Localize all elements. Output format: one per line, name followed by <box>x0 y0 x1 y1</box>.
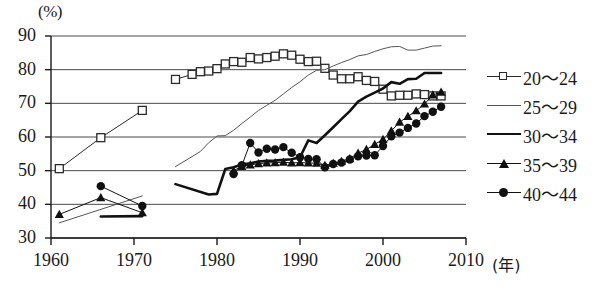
x-axis <box>51 238 466 245</box>
legend-label: 35～39 <box>523 151 577 177</box>
x-tick-label: 1970 <box>104 250 164 271</box>
x-tick-label: 1990 <box>270 250 330 271</box>
legend-swatch <box>487 156 521 172</box>
x-axis-unit-label: (年) <box>492 252 520 276</box>
y-tick-label: 90 <box>2 25 36 46</box>
legend-label: 20～24 <box>523 64 577 90</box>
y-tick-label: 60 <box>2 126 36 147</box>
x-tick-label: 1980 <box>187 250 247 271</box>
x-tick-label: 2000 <box>353 250 413 271</box>
x-tick-label: 1960 <box>21 250 81 271</box>
y-axis-unit-label: (%) <box>38 2 62 22</box>
y-axis <box>45 36 51 238</box>
legend-swatch <box>487 127 521 143</box>
legend-label: 30～34 <box>523 122 577 148</box>
legend-swatch <box>487 69 521 85</box>
legend-item-30-34[interactable]: 30～34 <box>487 120 595 149</box>
x-tick-label: 2010 <box>436 250 496 271</box>
legend-item-40-44[interactable]: 40～44 <box>487 178 595 207</box>
open-square-icon <box>499 72 507 80</box>
chart-root: (%) 30405060708090 196019701980199020002… <box>0 0 597 293</box>
y-tick-label: 80 <box>2 59 36 80</box>
legend-label: 25～29 <box>523 93 577 119</box>
filled-triangle-icon <box>499 159 509 168</box>
chart-legend: 20～2425～2930～3435～3940～44 <box>487 62 595 207</box>
y-tick-label: 50 <box>2 160 36 181</box>
filled-circle-icon <box>499 188 508 197</box>
series-layer <box>55 46 446 223</box>
gridlines <box>51 36 466 238</box>
legend-item-35-39[interactable]: 35～39 <box>487 149 595 178</box>
legend-item-25-29[interactable]: 25～29 <box>487 91 595 120</box>
legend-line-sample <box>487 105 521 106</box>
legend-item-20-24[interactable]: 20～24 <box>487 62 595 91</box>
legend-line-sample <box>487 133 521 136</box>
legend-label: 40～44 <box>523 180 577 206</box>
y-tick-label: 70 <box>2 92 36 113</box>
y-tick-label: 30 <box>2 227 36 248</box>
y-tick-label: 40 <box>2 193 36 214</box>
legend-swatch <box>487 185 521 201</box>
legend-swatch <box>487 98 521 114</box>
